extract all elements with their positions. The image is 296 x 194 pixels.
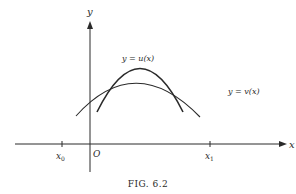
x-axis-label: x	[289, 139, 295, 150]
figure-caption: FIG. 6.2	[128, 179, 169, 189]
curve-v	[76, 83, 200, 117]
y-axis-label: y	[86, 6, 93, 17]
figure-canvas: x y O x0 x1 y = u(x) y = v(x) FIG. 6.2	[0, 0, 296, 194]
curve-u-label: y = u(x)	[121, 54, 154, 63]
x-axis-arrowhead	[279, 141, 287, 147]
origin-label: O	[93, 149, 101, 159]
y-axis-arrowhead	[87, 21, 93, 29]
curve-v-label: y = v(x)	[227, 87, 260, 96]
x0-tick-label: x0	[56, 151, 65, 162]
curve-u	[97, 69, 183, 113]
x1-tick-label: x1	[205, 151, 214, 162]
